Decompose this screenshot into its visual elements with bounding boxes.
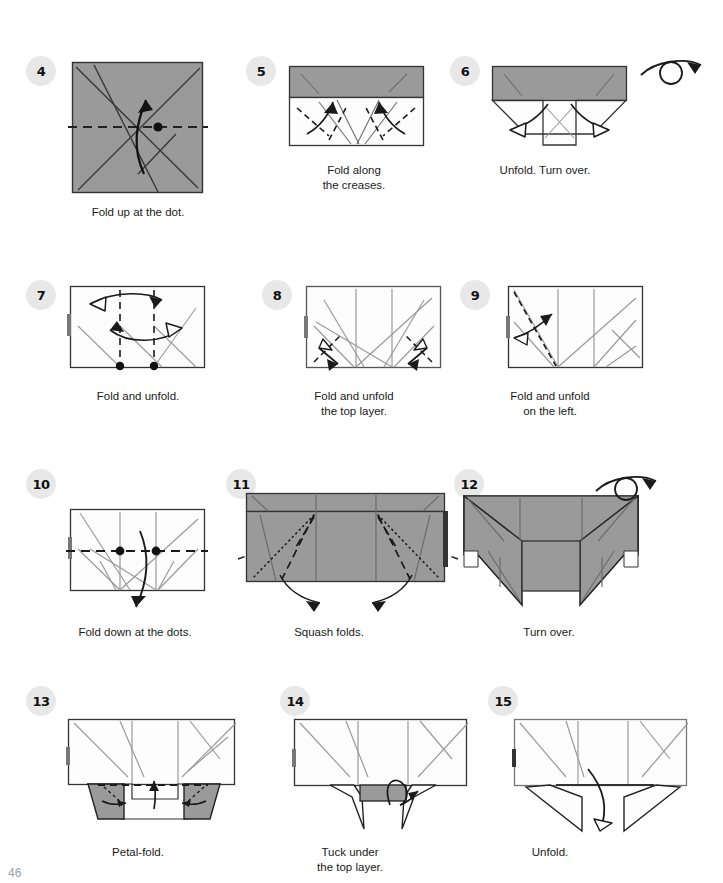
step-9-diagram (508, 286, 648, 378)
step-12-caption: Turn over. (454, 625, 644, 640)
step-number-badge: 8 (262, 280, 292, 310)
step-number-badge: 13 (26, 686, 56, 716)
step-number-badge: 4 (26, 56, 56, 86)
step-6-diagram (492, 66, 632, 158)
step-10-caption: Fold down at the dots. (10, 625, 260, 640)
step-number-badge: 7 (26, 280, 56, 310)
step-8-diagram (306, 286, 446, 378)
step-9-caption: Fold and unfold on the left. (430, 389, 670, 419)
step-7-diagram (70, 286, 210, 378)
step-13-diagram (68, 719, 243, 839)
step-number-badge: 10 (26, 469, 56, 499)
page-number: 46 (8, 866, 21, 880)
turn-over-symbol-icon (590, 465, 670, 505)
step-10-diagram (70, 509, 210, 619)
step-number-badge: 9 (460, 280, 490, 310)
step-14-caption: Tuck under the top layer. (240, 845, 460, 875)
step-number-badge: 5 (246, 56, 276, 86)
turn-over-symbol-icon (635, 51, 715, 91)
step-6-caption: Unfold. Turn over. (420, 163, 670, 178)
step-11-diagram (230, 493, 465, 613)
step-15-diagram (514, 719, 694, 844)
step-number-badge: 14 (280, 686, 310, 716)
step-12-diagram (458, 495, 668, 615)
step-4-diagram (72, 62, 204, 196)
step-15-caption: Unfold. (440, 845, 660, 860)
step-13-caption: Petal-fold. (22, 845, 254, 860)
origami-instruction-page: 4 Fold up at the dot. (0, 0, 723, 883)
step-7-caption: Fold and unfold. (22, 389, 254, 404)
step-4-caption: Fold up at the dot. (22, 205, 254, 220)
step-number-badge: 6 (450, 56, 480, 86)
step-14-diagram (294, 719, 474, 844)
step-5-diagram (289, 66, 429, 158)
step-11-caption: Squash folds. (234, 625, 424, 640)
step-number-badge: 15 (488, 686, 518, 716)
